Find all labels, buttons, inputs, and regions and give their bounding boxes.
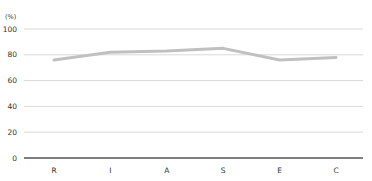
line-chart: (%) 020406080100 RIASEC	[0, 0, 372, 181]
x-tick-label: E	[277, 166, 282, 175]
y-axis-ticks: 020406080100	[3, 25, 18, 163]
series-line	[54, 48, 336, 60]
y-tick-label: 60	[7, 76, 17, 85]
x-tick-label: A	[164, 166, 170, 175]
y-tick-label: 80	[7, 50, 17, 59]
y-tick-label: 40	[7, 102, 17, 111]
y-axis-unit-label: (%)	[5, 13, 16, 21]
y-tick-label: 0	[12, 154, 17, 163]
x-axis-ticks: RIASEC	[51, 166, 338, 175]
x-tick-label: C	[333, 166, 338, 175]
x-tick-label: I	[109, 166, 111, 175]
y-tick-label: 20	[7, 128, 17, 137]
x-tick-label: R	[51, 166, 56, 175]
x-tick-label: S	[221, 166, 226, 175]
y-tick-label: 100	[3, 25, 18, 34]
